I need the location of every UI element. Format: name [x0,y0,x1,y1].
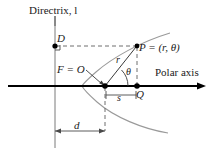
d-dimension-arrow-right [99,129,105,134]
polar-axis-label: Polar axis [155,67,199,78]
point-focus-dot [102,83,108,89]
point-D-dot [52,43,57,48]
polar-axis-arrowhead [197,82,206,89]
directrix-label: Directrix, l [29,5,77,16]
angle-theta-label: θ [126,67,131,77]
point-Q-label: Q [136,89,144,100]
d-dimension-arrow-left [55,129,61,134]
radius-segment [105,47,136,86]
focus-label: F = O [57,64,85,75]
segment-s-label: s [117,93,121,103]
diagram-canvas [0,0,209,159]
radius-label: r [116,55,120,65]
point-D-label: D [57,33,65,44]
conic-polar-diagram: Directrix, l Polar axis D F = O P = (r, … [0,0,209,159]
distance-d-label: d [74,120,80,131]
focus-leader-line [86,70,102,84]
point-P-label: P = (r, θ) [139,42,180,53]
